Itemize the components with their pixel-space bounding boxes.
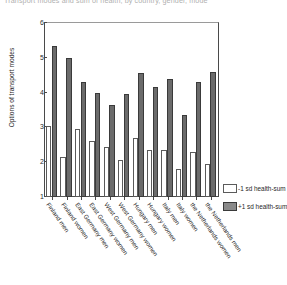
legend-swatch-high — [223, 202, 237, 211]
bar-series-container — [45, 23, 218, 197]
bar-high — [95, 93, 100, 197]
legend-label-high: +1 sd health-sum — [238, 203, 287, 210]
x-tick-mark — [110, 197, 111, 200]
bar-low — [118, 160, 123, 197]
bar-high — [210, 72, 215, 197]
y-axis-label: Options of transport modes — [8, 23, 15, 153]
y-tick-label-4: 4 — [30, 88, 44, 95]
bar-high — [167, 79, 172, 197]
bar-low — [133, 138, 138, 197]
x-tick-mark — [196, 197, 197, 200]
x-tick-mark — [95, 197, 96, 200]
x-tick-mark — [81, 197, 82, 200]
bar-high — [66, 58, 71, 197]
bar-low — [60, 157, 65, 197]
bar-high — [52, 46, 57, 197]
x-tick-mark — [168, 197, 169, 200]
bar-low — [147, 150, 152, 197]
x-tick-mark — [139, 197, 140, 200]
y-tick-label-6: 6 — [30, 19, 44, 26]
legend-item-high: +1 sd health-sum — [223, 202, 287, 211]
bar-low — [190, 152, 195, 197]
bar-high — [153, 87, 158, 197]
x-tick-mark — [182, 197, 183, 200]
y-tick-label-2: 2 — [30, 158, 44, 165]
bar-low — [89, 141, 94, 197]
bar-high — [182, 115, 187, 197]
legend-label-low: -1 sd health-sum — [238, 185, 286, 192]
x-tick-mark — [52, 197, 53, 200]
bar-high — [124, 94, 129, 197]
bar-high — [138, 73, 143, 197]
bar-low — [161, 150, 166, 197]
chart-title: Transport modes and sum of health, by co… — [4, 0, 287, 7]
y-tick-label-5: 5 — [30, 53, 44, 60]
x-tick-mark — [67, 197, 68, 200]
bar-low — [205, 164, 210, 197]
bar-low — [75, 129, 80, 197]
x-tick-mark — [153, 197, 154, 200]
y-tick-label-3: 3 — [30, 123, 44, 130]
chart-legend: -1 sd health-sum+1 sd health-sum — [223, 184, 287, 220]
legend-item-low: -1 sd health-sum — [223, 184, 287, 193]
bar-high — [196, 82, 201, 197]
x-tick-mark — [124, 197, 125, 200]
x-tick-mark — [211, 197, 212, 200]
y-tick-label-1: 1 — [30, 193, 44, 200]
bar-high — [81, 82, 86, 197]
bar-low — [46, 126, 51, 197]
legend-swatch-low — [223, 184, 237, 193]
bar-high — [109, 105, 114, 197]
bar-low — [176, 169, 181, 197]
bar-low — [104, 147, 109, 197]
